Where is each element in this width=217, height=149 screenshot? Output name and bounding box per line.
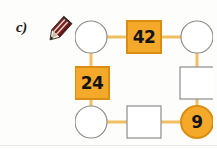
puzzle-value-r2c1: 24 (81, 75, 104, 92)
puzzle-value-r1c2: 42 (133, 29, 156, 46)
puzzle-cell-r3c2[interactable] (127, 106, 161, 138)
puzzle-value-r3c3: 9 (191, 114, 202, 131)
pencil-icon-svg (42, 15, 74, 47)
puzzle-cell-r1c1[interactable] (75, 21, 107, 53)
page-bottom-edge (0, 145, 217, 146)
number-puzzle-grid: 42 24 9 (75, 18, 213, 140)
puzzle-cell-r2c3[interactable] (180, 67, 213, 99)
exercise-label: c) (16, 19, 27, 36)
puzzle-cell-r3c1[interactable] (75, 106, 107, 138)
puzzle-cell-r1c3[interactable] (181, 21, 213, 53)
worksheet-page: c) (0, 0, 217, 149)
pencil-icon (42, 15, 74, 47)
